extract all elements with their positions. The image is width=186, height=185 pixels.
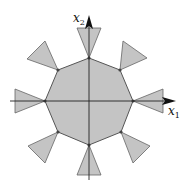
x2-axis-label: x2 [73,11,85,27]
x1-axis-label: x1 [168,104,180,120]
cone-top-right [120,41,147,70]
octagon-normal-cone-diagram: x2 x1 [0,0,186,185]
cone-bottom-right [121,132,150,163]
cone-bottom-left [28,132,58,163]
cone-top-left [27,41,58,70]
